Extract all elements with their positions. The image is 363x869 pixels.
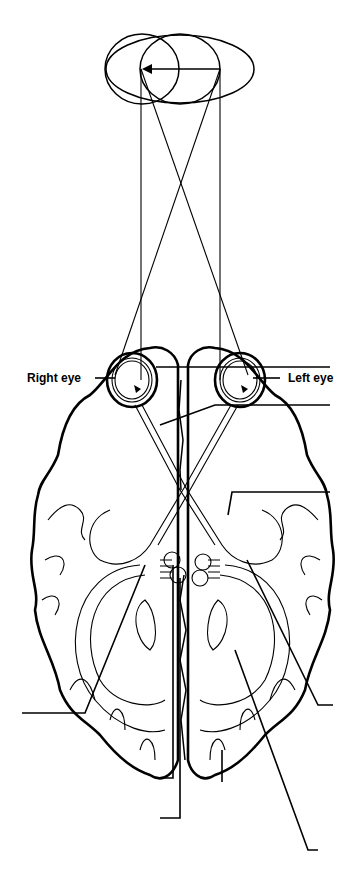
leader-line-3 [228, 492, 330, 515]
diagram-drawing [0, 0, 363, 869]
arrow-icon [241, 385, 248, 393]
left-eye-drawing [215, 353, 265, 407]
leader-line-5 [22, 565, 145, 713]
right-eye-drawing [107, 353, 157, 407]
visual-field [105, 34, 254, 104]
optic-pathway [90, 405, 282, 586]
arrow-left-icon [142, 64, 152, 74]
leader-line-6 [155, 565, 173, 778]
arrow-icon [134, 385, 141, 393]
right-eye-label: Right eye [27, 371, 81, 385]
projection-lines [115, 69, 248, 380]
visual-pathway-diagram: Right eye Left eye [0, 0, 363, 869]
left-eye-label: Left eye [288, 371, 333, 385]
leader-line-4 [247, 560, 333, 705]
leader-line-2 [160, 405, 330, 425]
